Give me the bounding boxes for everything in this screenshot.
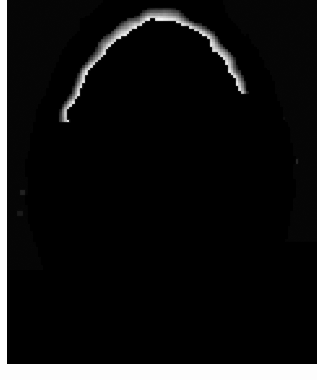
page-margin-left <box>0 0 7 380</box>
page-margin-bottom <box>0 364 317 380</box>
brain-scan-image <box>7 0 317 364</box>
scan-page <box>0 0 317 380</box>
brain-scan-frame <box>7 0 317 364</box>
